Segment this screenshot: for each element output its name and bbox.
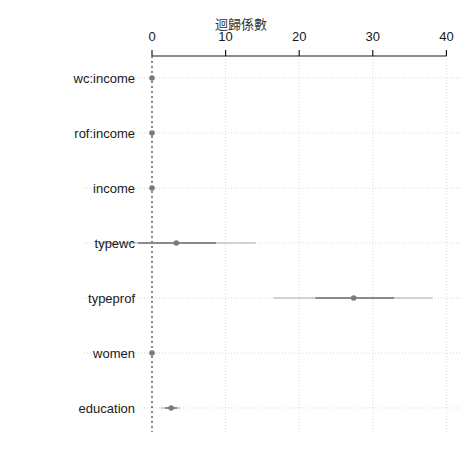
coefficient-point: [173, 240, 179, 246]
coefficient-point: [351, 295, 357, 301]
x-tick-label: 0: [148, 29, 155, 44]
x-tick-label: 20: [292, 29, 306, 44]
y-category-label: rof:income: [74, 126, 135, 141]
coefficient-plot: 迴歸係數 010203040 wc:incomerof:incomeincome…: [0, 0, 469, 452]
coefficient-point: [149, 185, 155, 191]
y-category-label: typewc: [95, 236, 135, 251]
coefficient-point: [149, 130, 155, 136]
x-tick-label: 30: [366, 29, 380, 44]
coefficient-point: [168, 405, 174, 411]
x-tick-label: 40: [439, 29, 453, 44]
y-category-label: women: [93, 346, 135, 361]
plot-area: [0, 0, 469, 452]
y-category-label: education: [79, 401, 135, 416]
coefficient-point: [149, 75, 155, 81]
y-category-label: typeprof: [88, 291, 135, 306]
x-tick-label: 10: [218, 29, 232, 44]
y-category-label: income: [93, 181, 135, 196]
coefficient-point: [149, 350, 155, 356]
y-category-label: wc:income: [74, 71, 135, 86]
